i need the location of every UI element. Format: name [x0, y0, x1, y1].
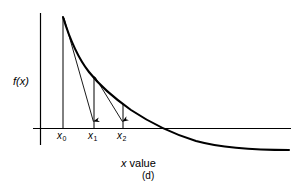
- x-axis-label-text: value: [127, 157, 156, 169]
- secant-arrow-x0-to-x1: [64, 18, 93, 122]
- tick-label-x0-base: x: [57, 130, 62, 141]
- figure-container: f(x) x0 x1 x2 x value (d): [0, 0, 304, 187]
- tick-label-x1-base: x: [88, 130, 93, 141]
- tick-label-x1-sub: 1: [94, 135, 98, 142]
- tick-label-x2-base: x: [117, 130, 122, 141]
- tick-label-x0-sub: 0: [63, 135, 67, 142]
- tick-label-x2: x2: [117, 131, 126, 141]
- panel-caption: (d): [142, 171, 154, 181]
- tick-label-x1: x1: [88, 131, 97, 141]
- tick-label-x2-sub: 2: [123, 135, 127, 142]
- x-axis-label: x value: [121, 158, 156, 169]
- y-axis-label: f(x): [13, 76, 29, 87]
- tick-label-x0: x0: [57, 131, 66, 141]
